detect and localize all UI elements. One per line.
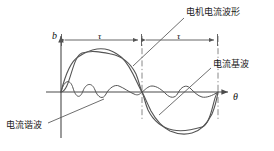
motor-current-curve	[61, 49, 218, 134]
leader-harmonic-current	[48, 99, 104, 123]
dimension-arrows	[62, 34, 218, 46]
leader-motor-current	[133, 18, 184, 66]
tau-span-1-label: τ	[98, 32, 101, 41]
period-boundaries	[142, 36, 218, 120]
motor-current-waveform-figure: b θ τ τ 电机电流波形 电流基波 电流谐波	[0, 0, 274, 151]
y-axis-label: b	[52, 31, 57, 41]
label-current-harmonic: 电流谐波	[6, 120, 42, 130]
x-axis-label: θ	[233, 92, 238, 102]
tau-span-2-label: τ	[177, 32, 180, 41]
label-current-fundamental: 电流基波	[213, 59, 249, 69]
axis-group	[46, 36, 228, 138]
fundamental-current-curve	[61, 51, 218, 130]
label-motor-current-waveform: 电机电流波形	[186, 7, 240, 17]
